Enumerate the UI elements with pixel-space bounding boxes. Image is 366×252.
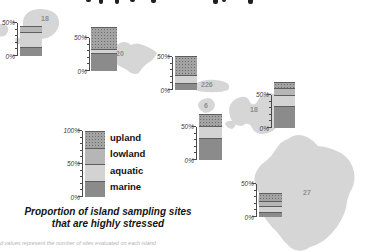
axis-tick — [192, 126, 196, 127]
axis-tick — [254, 203, 256, 204]
axis-tick — [194, 152, 196, 153]
axis-tick — [80, 176, 82, 177]
axis-tick — [78, 130, 82, 131]
axis-tick — [80, 143, 82, 144]
y-axis — [89, 38, 90, 71]
axis-tick — [194, 146, 196, 147]
axis-tick — [254, 190, 256, 191]
site-count-hawaii: 27 — [303, 189, 311, 196]
bar-segment-upland — [91, 27, 117, 49]
figure-footnote: d values represent the number of sites e… — [0, 240, 156, 246]
axis-tick — [252, 216, 256, 217]
axis-tick — [87, 63, 89, 64]
figure-title: Proportion of island sampling sites that… — [22, 206, 194, 230]
site-count-kauai: 18 — [41, 15, 49, 22]
legend-chart: 100% 50% 0% — [60, 131, 106, 197]
bar-segment-upland — [259, 193, 282, 200]
clipped-title-descender — [151, 0, 156, 3]
legend-item-aquatic: aquatic — [110, 162, 145, 179]
axis-tick — [254, 196, 256, 197]
axis-tick — [80, 150, 82, 151]
y-axis — [172, 57, 173, 90]
axis-tick — [15, 42, 17, 43]
site-count-lanai: 6 — [204, 102, 208, 109]
axis-tick-label: 50% — [60, 160, 80, 167]
y-axis — [82, 131, 83, 197]
axis-tick — [269, 107, 271, 108]
stacked-bar — [91, 27, 117, 71]
bar-segment-lowland — [274, 88, 295, 95]
axis-tick — [168, 89, 172, 90]
site-count-molokai: 226 — [201, 81, 213, 88]
legend-labels: upland lowland aquatic marine — [110, 129, 145, 195]
axis-tick — [269, 114, 271, 115]
axis-tick — [78, 196, 82, 197]
bar-segment-marine — [259, 212, 282, 217]
axis-tick — [85, 37, 89, 38]
bar-segment-aquatic — [85, 164, 105, 181]
legend-item-upland: upland — [110, 129, 145, 146]
axis-tick — [194, 139, 196, 140]
axis-tick — [13, 55, 17, 56]
axis-tick — [87, 57, 89, 58]
bar-chart-maui: 50% 0% — [253, 95, 298, 128]
axis-tick — [170, 63, 172, 64]
axis-tick — [87, 50, 89, 51]
bar-segment-aquatic — [274, 95, 295, 106]
bar-segment-lowland — [85, 148, 105, 165]
axis-tick — [168, 56, 172, 57]
y-axis — [271, 95, 272, 128]
axis-tick — [192, 159, 196, 160]
axis-tick — [170, 69, 172, 70]
bar-segment-upland — [175, 56, 197, 75]
clipped-title-descender — [213, 0, 218, 4]
bar-segment-aquatic — [20, 32, 42, 47]
bar-segment-aquatic — [199, 126, 222, 138]
bar-segment-marine — [199, 138, 222, 160]
bar-segment-marine — [175, 83, 197, 90]
site-count-oahu: 20 — [116, 50, 124, 57]
stacked-bar — [199, 114, 222, 160]
figure-canvas: 50% 0% 50% 0% 50% 0% 50% 0% 50% 0% 50% 0… — [0, 0, 366, 252]
stacked-bar — [259, 193, 282, 217]
axis-tick — [252, 183, 256, 184]
bar-chart-kauai: 50% 0% — [0, 23, 45, 56]
clipped-title-descender — [99, 0, 103, 4]
y-axis — [17, 23, 18, 56]
axis-tick — [80, 170, 82, 171]
bar-chart-oahu: 50% 0% — [71, 38, 121, 71]
axis-tick — [194, 133, 196, 134]
bar-segment-marine — [91, 53, 117, 71]
axis-tick-label: 100% — [60, 127, 80, 134]
axis-tick — [267, 94, 271, 95]
bar-chart-lanai: 50% 0% — [178, 127, 225, 160]
bar-segment-marine — [85, 181, 105, 198]
clipped-title-descender — [115, 0, 119, 4]
y-axis — [256, 184, 257, 217]
axis-tick — [15, 29, 17, 30]
y-axis — [196, 127, 197, 160]
axis-tick — [78, 163, 82, 164]
bar-segment-marine — [20, 47, 42, 56]
axis-tick — [267, 127, 271, 128]
stacked-bar — [175, 56, 197, 90]
axis-tick — [170, 82, 172, 83]
site-count-maui: 18 — [250, 106, 258, 113]
axis-tick — [85, 70, 89, 71]
bar-segment-upland — [199, 114, 222, 127]
stacked-bar — [274, 82, 295, 128]
axis-tick — [80, 183, 82, 184]
bar-segment-marine — [274, 106, 295, 128]
stacked-bar — [20, 26, 42, 56]
axis-tick — [13, 22, 17, 23]
legend-item-lowland: lowland — [110, 146, 145, 163]
bar-segment-aquatic — [175, 75, 197, 84]
axis-tick — [80, 137, 82, 138]
axis-tick — [15, 35, 17, 36]
axis-tick — [170, 76, 172, 77]
bar-chart-hawaii: 50% 0% — [238, 184, 285, 217]
clipped-title-descender — [248, 0, 253, 4]
axis-tick — [87, 44, 89, 45]
axis-tick — [269, 101, 271, 102]
bar-segment-upland — [85, 131, 105, 148]
